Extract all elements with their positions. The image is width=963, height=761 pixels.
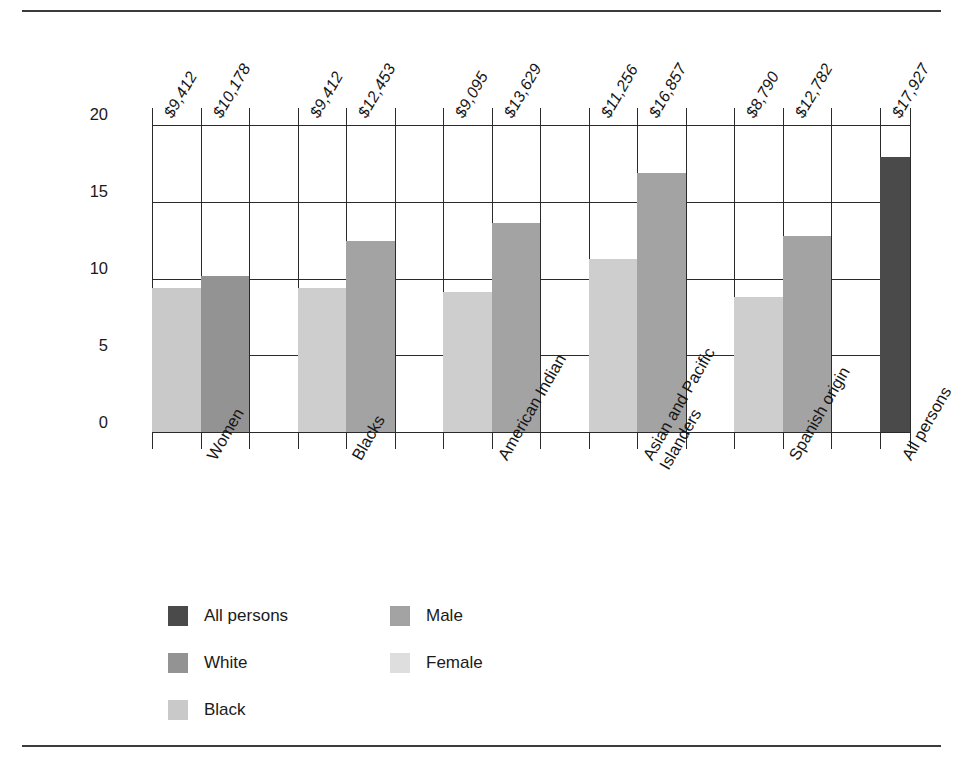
xtick-top-1: [201, 108, 202, 125]
bottom-divider-rule: [22, 745, 941, 747]
legend-swatch-black: [168, 700, 188, 720]
value-label-blacks-male: $12,453: [354, 61, 399, 121]
value-label-all-persons: $17,927: [888, 61, 933, 121]
value-label-american-indian-male: $13,629: [500, 61, 545, 121]
y-tick-5: 5: [68, 337, 108, 354]
gridline-y-15: [152, 202, 910, 203]
xtick-top-3: [298, 108, 299, 125]
legend-label-white: White: [204, 653, 247, 673]
bar-women-white: [201, 276, 250, 432]
legend-item-female[interactable]: Female: [390, 653, 483, 673]
xtick-top-4: [346, 108, 347, 125]
legend-item-all-persons[interactable]: All persons: [168, 606, 288, 626]
xtick-bottom-9: [589, 432, 590, 449]
legend-swatch-male: [390, 606, 410, 626]
value-label-women-white: $10,178: [209, 61, 254, 121]
xtick-top-0: [152, 108, 153, 125]
xtick-bottom-6: [443, 432, 444, 449]
value-label-spanish-origin-male: $12,782: [791, 61, 836, 121]
legend-swatch-white: [168, 653, 188, 673]
value-label-women-black: $9,412: [160, 69, 201, 121]
bar-spanish-origin-female: [734, 297, 783, 432]
gridline-x-2: [249, 125, 250, 432]
xtick-top-6: [443, 108, 444, 125]
y-tick-0: 0: [68, 414, 108, 431]
value-label-blacks-female: $9,412: [306, 69, 347, 121]
xtick-bottom-8: [540, 432, 541, 449]
top-divider-rule: [22, 10, 941, 12]
xtick-top-5: [395, 108, 396, 125]
xtick-bottom-15: [880, 432, 881, 449]
legend-label-male: Male: [426, 606, 463, 626]
xtick-bottom-14: [831, 432, 832, 449]
value-label-asian-pacific-male: $16,857: [645, 61, 690, 121]
bar-blacks-male: [346, 241, 395, 432]
bar-blacks-female: [298, 288, 347, 433]
gridline-x-16: [910, 125, 911, 432]
xtick-bottom-1: [201, 432, 202, 449]
xtick-top-15: [880, 108, 881, 125]
plot-area: [152, 125, 910, 432]
xtick-top-13: [783, 108, 784, 125]
legend-swatch-female: [390, 653, 410, 673]
y-tick-15: 15: [68, 183, 108, 200]
gridline-x-5: [395, 125, 396, 432]
legend-item-white[interactable]: White: [168, 653, 247, 673]
xtick-bottom-2: [249, 432, 250, 449]
xtick-top-14: [831, 108, 832, 125]
xtick-bottom-4: [346, 432, 347, 449]
legend-label-black: Black: [204, 700, 246, 720]
gridline-y-20: [152, 125, 910, 126]
xtick-top-8: [540, 108, 541, 125]
xtick-bottom-7: [492, 432, 493, 449]
xtick-top-9: [589, 108, 590, 125]
xtick-bottom-3: [298, 432, 299, 449]
value-label-asian-pacific-female: $11,256: [597, 62, 642, 121]
legend-label-all-persons: All persons: [204, 606, 288, 626]
xtick-bottom-10: [637, 432, 638, 449]
xtick-top-7: [492, 108, 493, 125]
chart-page: 20 15 10 5 0 Thousands of dollars: [0, 0, 963, 761]
xtick-bottom-13: [783, 432, 784, 449]
legend-label-female: Female: [426, 653, 483, 673]
value-label-american-indian-female: $9,095: [451, 69, 492, 121]
bar-women-black: [152, 288, 201, 433]
xtick-top-2: [249, 108, 250, 125]
y-axis-tick-labels: 20 15 10 5 0: [62, 0, 108, 761]
bar-american-indian-female: [443, 292, 492, 432]
xtick-top-10: [637, 108, 638, 125]
xtick-bottom-12: [734, 432, 735, 449]
value-label-spanish-origin-female: $8,790: [742, 69, 783, 121]
y-tick-20: 20: [68, 106, 108, 123]
legend-item-male[interactable]: Male: [390, 606, 463, 626]
xtick-top-16: [910, 108, 911, 125]
legend-swatch-all-persons: [168, 606, 188, 626]
bar-asian-pacific-female: [589, 259, 638, 432]
xtick-bottom-5: [395, 432, 396, 449]
xtick-top-12: [734, 108, 735, 125]
legend-item-black[interactable]: Black: [168, 700, 246, 720]
bar-all-persons: [880, 157, 911, 432]
xtick-top-11: [686, 108, 687, 125]
xtick-bottom-0: [152, 432, 153, 449]
y-tick-10: 10: [68, 260, 108, 277]
